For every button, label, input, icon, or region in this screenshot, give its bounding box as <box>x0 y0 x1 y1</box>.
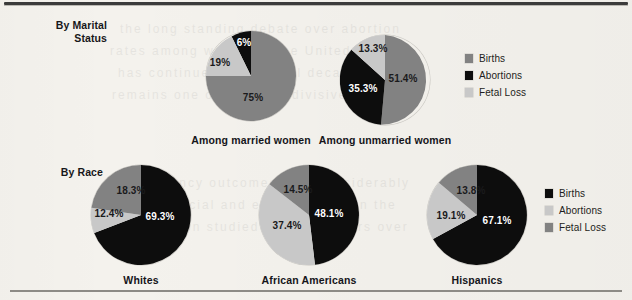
pie-slice-whites-fetal-loss <box>91 165 141 215</box>
pie-svg-whites <box>91 165 191 265</box>
bottom-divider-rule <box>10 290 622 292</box>
legend-label-births-race: Births <box>559 188 585 199</box>
pie-svg-unmarried <box>340 35 430 125</box>
pie-chart-african-americans: 48.1% 37.4% 14.5% <box>259 165 359 265</box>
pie-slice-unmarried-births <box>381 35 426 125</box>
legend-swatch-fetal-loss <box>465 88 473 97</box>
legend-label-abortions: Abortions <box>479 70 522 81</box>
pie-caption-african-americans: African Americans <box>262 274 357 286</box>
legend-swatch-abortions-race <box>545 206 553 215</box>
legend-item-fetal-loss-race: Fetal Loss <box>545 220 606 235</box>
pie-chart-married-women: 75% 6% 19% <box>206 31 296 121</box>
legend-race: Births Abortions Fetal Loss <box>545 186 606 237</box>
figure-panel: the long standing debate over abortion r… <box>0 0 632 300</box>
pie-graphic-hispanics <box>427 165 527 265</box>
pie-caption-whites: Whites <box>123 274 158 286</box>
pie-graphic-whites <box>91 165 191 265</box>
pie-svg-married <box>206 31 296 121</box>
section-title-race: By Race <box>15 166 103 179</box>
pie-caption-unmarried-women: Among unmarried women <box>319 134 452 146</box>
legend-label-abortions-race: Abortions <box>559 205 602 216</box>
pie-chart-whites: 69.3% 12.4% 18.3% <box>91 165 191 265</box>
legend-marital-status: Births Abortions Fetal Loss <box>465 51 526 102</box>
pie-svg-hispanics <box>427 165 527 265</box>
legend-swatch-births-race <box>545 189 553 198</box>
legend-label-fetal-loss: Fetal Loss <box>479 87 526 98</box>
pie-graphic-african-americans <box>259 165 359 265</box>
pie-graphic-unmarried <box>340 35 430 125</box>
legend-label-births: Births <box>479 53 505 64</box>
pie-graphic-married <box>206 31 296 121</box>
pie-caption-hispanics: Hispanics <box>452 274 503 286</box>
legend-label-fetal-loss-race: Fetal Loss <box>559 222 606 233</box>
legend-item-births-race: Births <box>545 186 606 201</box>
legend-swatch-fetal-loss-race <box>545 223 553 232</box>
legend-item-births: Births <box>465 51 526 66</box>
section-title-marital-status: By Marital Status <box>15 19 107 44</box>
legend-item-fetal-loss: Fetal Loss <box>465 85 526 100</box>
pie-chart-unmarried-women: 51.4% 35.3% 13.3% <box>340 35 430 125</box>
pie-chart-hispanics: 67.1% 19.1% 13.8% <box>427 165 527 265</box>
pie-caption-married-women: Among married women <box>191 134 311 146</box>
legend-item-abortions: Abortions <box>465 68 526 83</box>
legend-swatch-abortions <box>465 71 473 80</box>
legend-item-abortions-race: Abortions <box>545 203 606 218</box>
pie-svg-african-americans <box>259 165 359 265</box>
legend-swatch-births <box>465 54 473 63</box>
pie-slice-african-americans-births <box>309 165 359 265</box>
top-divider-shadow <box>4 5 628 6</box>
